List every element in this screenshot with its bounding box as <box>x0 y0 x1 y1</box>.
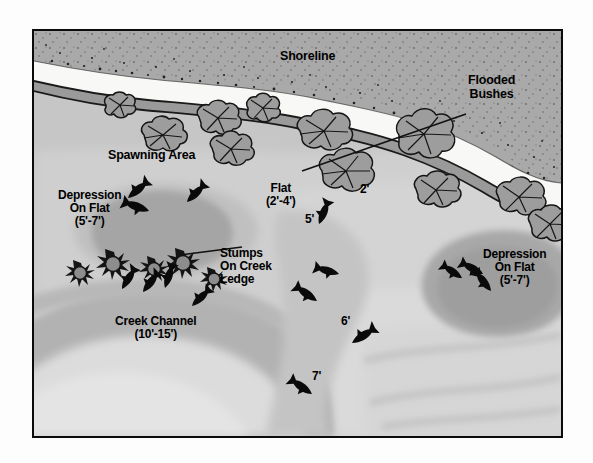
lake-map-illustration <box>34 31 561 436</box>
bush-icon <box>528 205 561 241</box>
bush-icon <box>247 93 281 122</box>
bush-icon <box>197 100 241 134</box>
bush-icon <box>397 109 455 158</box>
bush-icon <box>414 171 460 207</box>
diagram-page: Shoreline Flooded Bushes Spawning Area D… <box>0 0 593 463</box>
diagram-frame: Shoreline Flooded Bushes Spawning Area D… <box>32 29 563 438</box>
bush-icon <box>297 109 352 150</box>
bush-icon <box>105 92 136 118</box>
bush-icon <box>210 131 254 165</box>
